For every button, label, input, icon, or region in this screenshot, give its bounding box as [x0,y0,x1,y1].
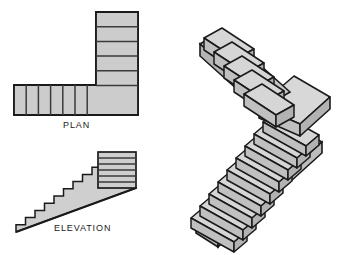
elevation-view [16,152,136,232]
stair-drawing-figure [0,0,339,255]
elevation-view-label: ELEVATION [54,223,111,233]
stair-drawing-page: PLAN ELEVATION [0,0,339,255]
plan-view-label: PLAN [63,120,90,130]
isometric-view [191,28,330,252]
iso-upper-flight-steps [204,28,294,127]
plan-view [14,12,138,115]
